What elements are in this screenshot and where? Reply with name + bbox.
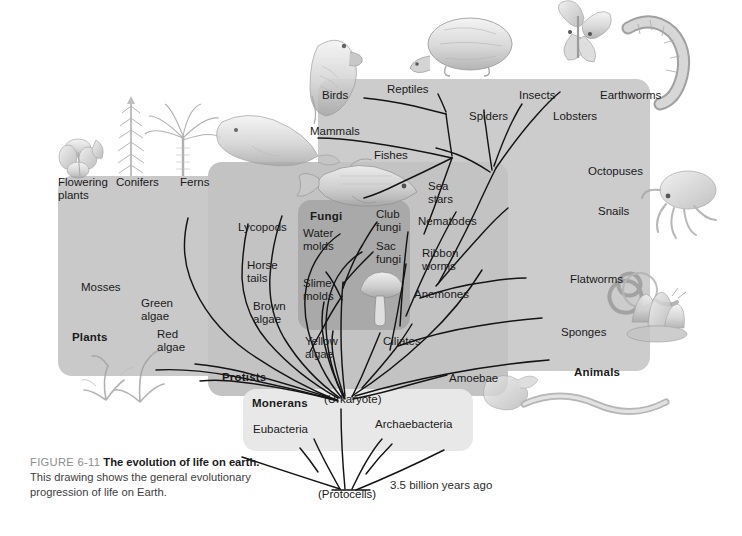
leaf-label-slime-molds: Slime molds — [303, 277, 334, 302]
leaf-label-sea-stars: Sea stars — [428, 180, 453, 205]
leaf-label-amoebae: Amoebae — [449, 372, 498, 385]
conifer-illustration — [118, 96, 144, 176]
node-label-urkaryote: (Urkaryote) — [324, 393, 382, 405]
leaf-label-sponges: Sponges — [561, 326, 606, 339]
leaf-label-ciliates: Ciliates — [383, 335, 421, 348]
leaf-label-ribbon-worms: Ribbon worms — [422, 247, 458, 272]
flatworm-illustration — [524, 396, 666, 412]
fern-illustration — [145, 104, 221, 176]
insect-illustration — [558, 1, 611, 62]
leaf-label-flowering-plants: Flowering plants — [58, 176, 108, 201]
leaf-label-sac-fungi: Sac fungi — [376, 240, 401, 265]
leaf-label-archaebacteria: Archaebacteria — [375, 418, 452, 431]
kingdom-label-protists: Protists — [222, 371, 266, 383]
leaf-label-insects: Insects — [519, 89, 555, 102]
kingdom-label-animals: Animals — [574, 366, 620, 378]
leaf-label-nematodes: Nematodes — [418, 215, 477, 228]
figure-body-text: This drawing shows the general evolution… — [30, 471, 251, 498]
leaf-label-yellow-algae: Yellow algae — [305, 335, 338, 360]
leaf-label-birds: Birds — [322, 89, 348, 102]
leaf-label-eubacteria: Eubacteria — [253, 423, 308, 436]
leaf-label-green-algae: Green algae — [141, 297, 173, 322]
leaf-label-red-algae: Red algae — [157, 328, 185, 353]
octopus-illustration — [642, 171, 716, 238]
leaf-label-horse-tails: Horse tails — [247, 259, 278, 284]
leaf-label-lycopods: Lycopods — [238, 221, 287, 234]
leaf-label-lobsters: Lobsters — [553, 110, 597, 123]
leaf-label-mosses: Mosses — [81, 281, 121, 294]
leaf-label-conifers: Conifers — [116, 176, 159, 189]
leaf-label-spiders: Spiders — [469, 110, 508, 123]
leaf-label-snails: Snails — [598, 205, 629, 218]
figure-number: FIGURE 6-11 — [30, 456, 100, 468]
figure-caption: FIGURE 6-11 The evolution of life on ear… — [30, 455, 280, 500]
time-annotation: 3.5 billion years ago — [390, 479, 492, 491]
leaf-label-ferns: Ferns — [180, 176, 209, 189]
leaf-label-club-fungi: Club fungi — [376, 208, 401, 233]
leaf-label-brown-algae: Brown algae — [253, 300, 286, 325]
leaf-label-reptiles: Reptiles — [387, 83, 429, 96]
leaf-label-anemones: Anemones — [414, 288, 469, 301]
leaf-label-fishes: Fishes — [374, 149, 408, 162]
leader-eubacteria — [300, 448, 318, 472]
figure-evolution-of-life: Plants Protists Fungi Animals Monerans F… — [0, 0, 742, 536]
kingdom-label-plants: Plants — [72, 331, 108, 343]
leaf-label-earthworms: Earthworms — [600, 89, 661, 102]
kingdom-label-fungi: Fungi — [310, 210, 342, 222]
leaf-label-water-molds: Water molds — [303, 227, 334, 252]
figure-title: The evolution of life on earth. — [103, 456, 259, 468]
flower-illustration — [59, 139, 103, 178]
node-label-protocells: (Protocells) — [318, 488, 376, 500]
leaf-label-flatworms: Flatworms — [570, 273, 623, 286]
reptile-illustration — [410, 18, 512, 76]
kingdom-label-monerans: Monerans — [252, 397, 308, 409]
leaf-label-mammals: Mammals — [310, 125, 360, 138]
leaf-label-octopuses: Octopuses — [588, 165, 643, 178]
